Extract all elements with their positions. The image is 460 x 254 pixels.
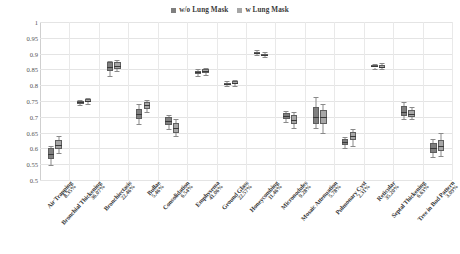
gridline-vertical [364, 22, 365, 180]
gridline-vertical [275, 22, 276, 180]
median-line [283, 116, 289, 117]
whisker-upper [315, 97, 316, 107]
whisker-cap-lower [313, 128, 318, 129]
x-axis-labels: Air Trapping8.35%Bronchial Thickening36.… [40, 180, 452, 254]
median-line [232, 83, 238, 84]
median-line [48, 154, 54, 155]
median-line [371, 66, 377, 67]
boxplot-w-o-lung-mask [48, 22, 54, 180]
y-axis-tick-label: 0.75 [4, 98, 38, 105]
boxplot-w-o-lung-mask [283, 22, 289, 180]
boxplot-w-lung-mask [379, 22, 385, 180]
median-line [408, 114, 414, 115]
y-axis-tick-label: 0.65 [4, 129, 38, 136]
median-line [202, 71, 208, 72]
median-line [136, 114, 142, 115]
whisker-cap-lower [291, 128, 296, 129]
boxplot-w-lung-mask [438, 22, 444, 180]
legend-swatch-wo-lung-mask [171, 8, 176, 13]
whisker-cap-lower [48, 165, 53, 166]
boxplot-w-lung-mask [202, 22, 208, 180]
whisker-cap-lower [409, 119, 414, 120]
whisker-cap-lower [262, 57, 267, 58]
y-axis-tick-label: 0.9 [4, 50, 38, 57]
gridline-vertical [187, 22, 188, 180]
y-axis-tick-label: 0.8 [4, 82, 38, 89]
whisker-cap-lower [78, 105, 83, 106]
boxplot-w-o-lung-mask [224, 22, 230, 180]
whisker-lower [323, 124, 324, 133]
boxplot-w-lung-mask [144, 22, 150, 180]
y-axis-tick-label: 1 [4, 19, 38, 26]
whisker-cap-upper [115, 60, 120, 61]
whisker-cap-lower [107, 76, 112, 77]
median-line [342, 142, 348, 143]
median-line [173, 128, 179, 129]
gridline-vertical [423, 22, 424, 180]
whisker-cap-upper [196, 69, 201, 70]
whisker-cap-lower [350, 146, 355, 147]
boxplot-w-lung-mask [232, 22, 238, 180]
whisker-cap-lower [196, 76, 201, 77]
whisker-cap-upper [439, 133, 444, 134]
y-axis-tick-label: 0.6 [4, 145, 38, 152]
whisker-cap-upper [321, 104, 326, 105]
median-line [291, 120, 297, 121]
whisker-cap-lower [372, 69, 377, 70]
legend-entry-w-lung-mask: w Lung Mask [237, 6, 288, 14]
boxplot-w-o-lung-mask [136, 22, 142, 180]
whisker-cap-lower [115, 71, 120, 72]
whisker-cap-lower [144, 112, 149, 113]
boxplot-w-o-lung-mask [165, 22, 171, 180]
whisker-cap-upper [380, 63, 385, 64]
whisker-cap-upper [284, 111, 289, 112]
whisker-cap-upper [166, 115, 171, 116]
whisker-cap-upper [402, 102, 407, 103]
boxplot-w-lung-mask [261, 22, 267, 180]
whisker-cap-upper [409, 107, 414, 108]
gridline-vertical [305, 22, 306, 180]
whisker-cap-lower [380, 69, 385, 70]
chart-legend: w/o Lung Mask w Lung Mask [0, 6, 460, 14]
whisker-cap-lower [233, 86, 238, 87]
median-line [77, 102, 83, 103]
whisker-cap-lower [56, 153, 61, 154]
whisker-cap-lower [284, 122, 289, 123]
gridline-vertical [217, 22, 218, 180]
boxplot-w-lung-mask [55, 22, 61, 180]
legend-label-w-lung-mask: w Lung Mask [245, 6, 288, 14]
boxplot-w-o-lung-mask [342, 22, 348, 180]
whisker-cap-upper [203, 68, 208, 69]
whisker-cap-upper [137, 104, 142, 105]
gridline-vertical [158, 22, 159, 180]
median-line [438, 146, 444, 147]
whisker-cap-upper [144, 100, 149, 101]
whisker-cap-lower [174, 136, 179, 137]
gridline-vertical [452, 22, 453, 180]
boxplot-w-o-lung-mask [313, 22, 319, 180]
gridline-vertical [69, 22, 70, 180]
boxplot-w-lung-mask [350, 22, 356, 180]
gridline-vertical [393, 22, 394, 180]
median-line [320, 117, 326, 118]
whisker-cap-lower [343, 148, 348, 149]
median-line [350, 136, 356, 137]
boxplot-w-o-lung-mask [77, 22, 83, 180]
whisker-cap-lower [203, 75, 208, 76]
median-line [254, 53, 260, 54]
whisker-cap-lower [439, 156, 444, 157]
whisker-cap-upper [56, 136, 61, 137]
median-line [107, 67, 113, 68]
boxplot-w-o-lung-mask [371, 22, 377, 180]
gridline-vertical [99, 22, 100, 180]
median-line [85, 101, 91, 102]
boxplot-w-o-lung-mask [107, 22, 113, 180]
boxplot-chart: w/o Lung Mask w Lung Mask 0.50.550.60.65… [0, 0, 460, 254]
legend-swatch-w-lung-mask [237, 8, 242, 13]
whisker-cap-upper [107, 61, 112, 62]
boxplot-w-o-lung-mask [430, 22, 436, 180]
median-line [114, 66, 120, 67]
whisker-cap-lower [225, 86, 230, 87]
whisker-cap-upper [431, 139, 436, 140]
whisker-cap-lower [402, 119, 407, 120]
